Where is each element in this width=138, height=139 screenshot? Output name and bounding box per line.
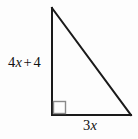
vertical-leg-operator: + xyxy=(22,54,33,70)
vertical-leg-constant: 4 xyxy=(33,54,40,70)
vertical-leg-label: 4x+4 xyxy=(8,55,41,70)
horizontal-leg-variable: x xyxy=(90,117,97,133)
triangle-outline xyxy=(52,8,131,115)
hypotenuse-line xyxy=(52,8,131,115)
right-triangle-figure: 4x+4 3x xyxy=(0,0,138,139)
right-angle-marker-icon xyxy=(54,102,66,114)
horizontal-leg-label: 3x xyxy=(83,118,97,133)
